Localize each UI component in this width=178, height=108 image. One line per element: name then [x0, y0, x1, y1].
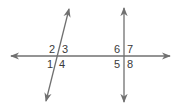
angle-label-4: 4 [59, 58, 65, 70]
angle-label-5: 5 [114, 58, 120, 70]
diagram-svg: 12345678 [0, 0, 178, 108]
angle-label-7: 7 [127, 43, 133, 55]
slanted-transversal [46, 9, 69, 101]
transversal-diagram: 12345678 [0, 0, 178, 108]
angle-label-6: 6 [114, 43, 120, 55]
angle-label-3: 3 [62, 43, 68, 55]
angle-label-2: 2 [49, 43, 55, 55]
angle-label-8: 8 [127, 58, 133, 70]
angle-label-1: 1 [47, 58, 53, 70]
